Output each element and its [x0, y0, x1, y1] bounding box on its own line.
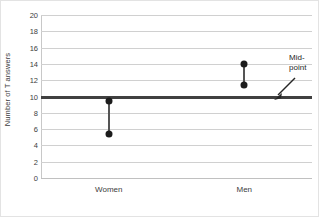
gridline	[41, 113, 312, 114]
gridline	[41, 80, 312, 81]
y-axis-tick-label: 6	[4, 125, 38, 134]
midpoint-annotation-line1: Mid-	[289, 53, 305, 63]
gridline	[41, 145, 312, 146]
data-point-marker	[241, 82, 248, 89]
y-axis-tick-label: 4	[4, 141, 38, 150]
data-point-marker	[105, 98, 112, 105]
gridline	[41, 31, 312, 32]
y-axis-tick-labels: 20181614121086420	[1, 15, 38, 178]
gridline	[41, 64, 312, 65]
y-axis-tick-label: 10	[4, 92, 38, 101]
y-axis-tick-label: 12	[4, 76, 38, 85]
y-axis-tick-label: 2	[4, 157, 38, 166]
gridline	[41, 178, 312, 179]
y-axis-tick-label: 0	[4, 174, 38, 183]
series-connector	[108, 101, 110, 134]
midpoint-reference-line	[41, 96, 312, 99]
x-axis-tick-label: Women	[95, 185, 122, 194]
y-axis-tick-label: 20	[4, 11, 38, 20]
gridline	[41, 15, 312, 16]
gridline	[41, 162, 312, 163]
chart-container: Number of T answers 20181614121086420 Wo…	[0, 0, 319, 217]
y-axis-tick-label: 14	[4, 59, 38, 68]
data-point-marker	[241, 60, 248, 67]
midpoint-annotation-line2: point	[289, 63, 306, 73]
plot-area	[41, 15, 312, 178]
y-axis-tick-label: 8	[4, 108, 38, 117]
y-axis-tick-label: 16	[4, 43, 38, 52]
data-point-marker	[105, 130, 112, 137]
gridline	[41, 129, 312, 130]
x-axis-tick-label: Men	[236, 185, 252, 194]
gridline	[41, 48, 312, 49]
y-axis-tick-label: 18	[4, 27, 38, 36]
